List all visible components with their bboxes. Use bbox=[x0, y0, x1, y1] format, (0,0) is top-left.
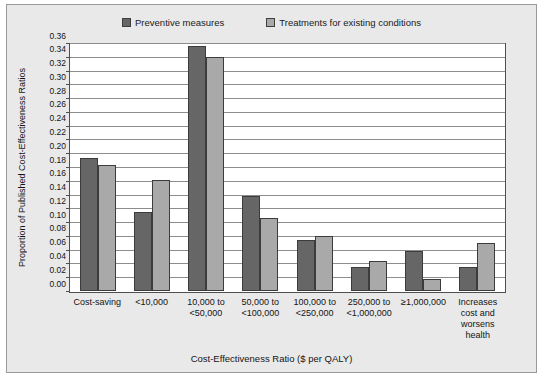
bar-group bbox=[125, 45, 179, 291]
x-axis-title: Cost-Effectiveness Ratio ($ per QALY) bbox=[7, 353, 536, 364]
y-axis-tick-mark bbox=[66, 277, 70, 278]
legend-swatch-icon-0 bbox=[122, 18, 131, 27]
y-axis-tick-label: 0.16 bbox=[49, 169, 66, 178]
y-axis-tick-mark bbox=[66, 84, 70, 85]
y-axis-tick-label: 0.06 bbox=[49, 238, 66, 247]
bar bbox=[459, 267, 477, 291]
bar bbox=[351, 267, 369, 291]
y-axis-tick-label: 0.32 bbox=[49, 59, 66, 68]
x-axis-tick-label: 250,000 to <1,000,000 bbox=[342, 297, 396, 341]
legend-label-0: Preventive measures bbox=[135, 17, 224, 28]
y-axis-tick-mark bbox=[66, 263, 70, 264]
bar bbox=[242, 196, 260, 291]
legend-entry-treatments-existing-conditions: Treatments for existing conditions bbox=[266, 17, 421, 28]
x-axis-tick-label: Increases cost and worsens health bbox=[451, 297, 505, 341]
x-axis-tick-label: 10,000 to <50,000 bbox=[179, 297, 233, 341]
y-axis-tick-mark bbox=[66, 43, 70, 44]
bar bbox=[206, 57, 224, 291]
legend-label-1: Treatments for existing conditions bbox=[279, 17, 421, 28]
y-axis-tick-mark bbox=[66, 71, 70, 72]
y-axis-tick-label: 0.28 bbox=[49, 86, 66, 95]
y-axis-tick-mark bbox=[66, 167, 70, 168]
y-axis-tick-mark bbox=[66, 291, 70, 292]
y-axis-tick-mark bbox=[66, 250, 70, 251]
x-axis-tick-label: <10,000 bbox=[124, 297, 178, 341]
legend-swatch-icon-1 bbox=[266, 18, 275, 27]
bar bbox=[477, 243, 495, 291]
y-axis-tick-mark bbox=[66, 126, 70, 127]
y-axis-tick-label: 0.02 bbox=[49, 265, 66, 274]
bar bbox=[297, 240, 315, 291]
y-axis-tick-label: 0.00 bbox=[49, 279, 66, 288]
plot-area: 0.000.020.040.060.080.100.120.140.160.18… bbox=[69, 43, 506, 293]
y-axis-tick-label: 0.24 bbox=[49, 114, 66, 123]
plot-frame: 0.000.020.040.060.080.100.120.140.160.18… bbox=[69, 43, 506, 293]
bar bbox=[315, 236, 333, 291]
bar bbox=[260, 218, 278, 291]
chart-figure: Preventive measures Treatments for exist… bbox=[6, 4, 537, 373]
y-axis-tick-mark bbox=[66, 153, 70, 154]
y-axis-tick-label: 0.22 bbox=[49, 128, 66, 137]
y-axis-tick-mark bbox=[66, 195, 70, 196]
legend-entry-preventive-measures: Preventive measures bbox=[122, 17, 224, 28]
y-axis-tick-label: 0.18 bbox=[49, 155, 66, 164]
x-axis-tick-label: 50,000 to <100,000 bbox=[233, 297, 287, 341]
y-axis-tick-mark bbox=[66, 208, 70, 209]
y-axis-title-text: Proportion of Published Cost-Effectivene… bbox=[17, 68, 27, 267]
y-axis-tick-label: 0.26 bbox=[49, 100, 66, 109]
y-axis-tick-mark bbox=[66, 98, 70, 99]
y-axis-tick-mark bbox=[66, 222, 70, 223]
y-axis-title: Proportion of Published Cost-Effectivene… bbox=[14, 41, 30, 293]
y-axis-tick-label: 0.08 bbox=[49, 224, 66, 233]
bar-group bbox=[342, 45, 396, 291]
bar-group bbox=[179, 45, 233, 291]
bar bbox=[405, 251, 423, 291]
bar bbox=[423, 279, 441, 291]
y-axis-tick-mark bbox=[66, 236, 70, 237]
bar-group bbox=[396, 45, 450, 291]
gridline bbox=[70, 43, 505, 44]
x-axis-tick-label: Cost-saving bbox=[70, 297, 124, 341]
y-axis-tick-mark bbox=[66, 181, 70, 182]
y-axis-tick-label: 0.12 bbox=[49, 197, 66, 206]
y-axis-tick-label: 0.34 bbox=[49, 45, 66, 54]
x-axis-tick-label: ≥1,000,000 bbox=[396, 297, 450, 341]
y-axis-tick-label: 0.20 bbox=[49, 141, 66, 150]
y-axis-tick-label: 0.10 bbox=[49, 210, 66, 219]
y-axis-tick-label: 0.04 bbox=[49, 252, 66, 261]
y-axis-tick-mark bbox=[66, 112, 70, 113]
bar-groups bbox=[71, 45, 504, 291]
x-axis-tick-label: 100,000 to <250,000 bbox=[288, 297, 342, 341]
bar bbox=[152, 180, 170, 291]
y-axis-tick-label: 0.36 bbox=[49, 31, 66, 40]
y-axis-tick-mark bbox=[66, 139, 70, 140]
bar-group bbox=[450, 45, 504, 291]
bar bbox=[188, 46, 206, 291]
y-axis-tick-mark bbox=[66, 57, 70, 58]
x-axis-tick-labels: Cost-saving<10,00010,000 to <50,00050,00… bbox=[70, 297, 505, 341]
bar-group bbox=[71, 45, 125, 291]
chart-legend: Preventive measures Treatments for exist… bbox=[7, 17, 536, 28]
bar bbox=[98, 165, 116, 291]
bar bbox=[369, 261, 387, 291]
bar-group bbox=[233, 45, 287, 291]
y-axis-tick-label: 0.14 bbox=[49, 183, 66, 192]
bar-group bbox=[288, 45, 342, 291]
y-axis-tick-label: 0.30 bbox=[49, 73, 66, 82]
bar bbox=[134, 212, 152, 291]
bar bbox=[80, 158, 98, 291]
